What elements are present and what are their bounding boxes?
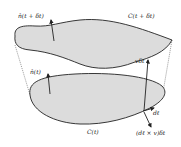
label-normal-bottom: n̂(t) [30, 68, 42, 75]
side-line-left [15, 45, 30, 95]
label-dl: dℓ [153, 109, 160, 116]
label-cross: (dℓ × v)δt [136, 129, 166, 136]
label-curve-bottom: C(t) [87, 128, 99, 135]
diagram-canvas: n̂(t + δt) C(t + δt) n̂(t) vδt dℓ C(t) (… [0, 0, 181, 147]
cross-arrow [144, 112, 151, 127]
label-v-dt: vδt [135, 57, 145, 64]
surface-top [15, 20, 172, 69]
label-curve-top: C(t + δt) [128, 12, 155, 19]
label-normal-top: n̂(t + δt) [18, 12, 44, 19]
